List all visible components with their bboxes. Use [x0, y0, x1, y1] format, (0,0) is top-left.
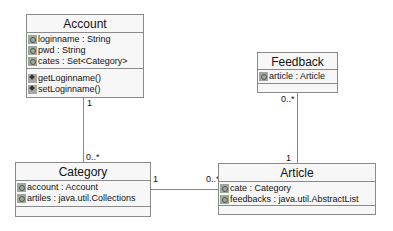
attribute-icon [220, 184, 229, 193]
class-category-name: Category [16, 163, 150, 181]
operation-row[interactable]: setLoginname() [28, 84, 143, 95]
class-article-operations [219, 206, 375, 214]
attribute-row[interactable]: cate : Category [220, 183, 375, 194]
class-feedback-operations [258, 84, 337, 92]
class-category-attributes: account : Account artiles : java.util.Co… [16, 181, 150, 207]
attribute-icon [28, 46, 37, 55]
attribute-text: artiles : java.util.Collections [27, 193, 136, 204]
multiplicity-category-end: 0..* [86, 152, 100, 162]
class-feedback[interactable]: Feedback article : Article [257, 52, 338, 93]
attribute-text: feedbacks : java.util.AbstractList [230, 194, 359, 205]
multiplicity-category-side: 1 [153, 174, 158, 184]
operation-icon [28, 74, 37, 83]
attribute-row[interactable]: article : Article [259, 71, 337, 82]
attribute-row[interactable]: loginname : String [28, 34, 143, 45]
attribute-icon [259, 72, 268, 81]
class-category-operations [16, 207, 150, 216]
attribute-text: cates : Set<Category> [38, 56, 128, 67]
operation-row[interactable]: getLoginname() [28, 73, 143, 84]
attribute-row[interactable]: feedbacks : java.util.AbstractList [220, 194, 375, 205]
class-article-name: Article [219, 164, 375, 182]
attribute-icon [17, 183, 26, 192]
attribute-row[interactable]: pwd : String [28, 45, 143, 56]
operation-icon [28, 85, 37, 94]
class-account-operations: getLoginname() setLoginname() [27, 69, 143, 96]
attribute-icon [220, 195, 229, 204]
class-feedback-name: Feedback [258, 53, 337, 70]
attribute-icon [17, 194, 26, 203]
attribute-icon [28, 35, 37, 44]
attribute-text: pwd : String [38, 45, 86, 56]
attribute-text: cate : Category [230, 183, 291, 194]
attribute-row[interactable]: artiles : java.util.Collections [17, 193, 150, 204]
operation-text: getLoginname() [38, 73, 101, 84]
class-feedback-attributes: article : Article [258, 70, 337, 84]
class-article-attributes: cate : Category feedbacks : java.util.Ab… [219, 182, 375, 206]
attribute-text: article : Article [269, 71, 325, 82]
association-account-category-line [83, 97, 84, 162]
multiplicity-account-end: 1 [87, 98, 92, 108]
operation-text: setLoginname() [38, 84, 101, 95]
attribute-text: account : Account [27, 182, 98, 193]
association-feedback-article-line [297, 92, 298, 163]
attribute-row[interactable]: cates : Set<Category> [28, 56, 143, 67]
attribute-row[interactable]: account : Account [17, 182, 150, 193]
class-account-attributes: loginname : String pwd : String cates : … [27, 33, 143, 69]
attribute-icon [28, 57, 37, 66]
uml-diagram-canvas: 1 0..* 1 0..* 0..* 1 Account loginname :… [0, 0, 393, 231]
class-account[interactable]: Account loginname : String pwd : String … [26, 14, 144, 98]
multiplicity-article-top-end: 1 [286, 153, 291, 163]
class-category[interactable]: Category account : Account artiles : jav… [15, 162, 151, 217]
association-category-article-line [150, 189, 218, 190]
attribute-text: loginname : String [38, 34, 111, 45]
class-article[interactable]: Article cate : Category feedbacks : java… [218, 163, 376, 215]
multiplicity-feedback-end: 0..* [281, 94, 295, 104]
class-account-name: Account [27, 15, 143, 33]
